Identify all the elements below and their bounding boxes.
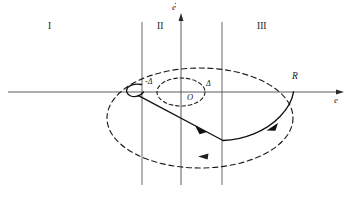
edot-axis-group: [179, 13, 184, 185]
terminal-point-label-R: R: [292, 72, 298, 82]
solid-trajectory-path: [127, 84, 294, 140]
figure-canvas: [0, 0, 354, 197]
dashed-ellipse-arrow: [198, 154, 209, 160]
trajectory-arrow-segment: [195, 126, 207, 134]
region-label-I: I: [48, 22, 51, 32]
e-axis-arrowhead: [336, 89, 344, 94]
e-axis-label: e: [334, 96, 338, 105]
phase-plane-figure: I II III e e R O Δ -Δ: [0, 0, 354, 197]
trajectory-hook: [127, 84, 144, 97]
edot-axis-arrowhead: [179, 13, 184, 21]
edot-axis-label: e: [172, 3, 176, 12]
trajectory-arc-to-R: [223, 92, 294, 141]
origin-label-O: O: [187, 93, 193, 102]
region-label-II: II: [157, 22, 163, 32]
trajectory-straight-segment: [138, 95, 223, 140]
region-label-III: III: [257, 22, 267, 32]
delta-positive-label: Δ: [206, 80, 211, 88]
delta-negative-label: -Δ: [145, 78, 152, 86]
